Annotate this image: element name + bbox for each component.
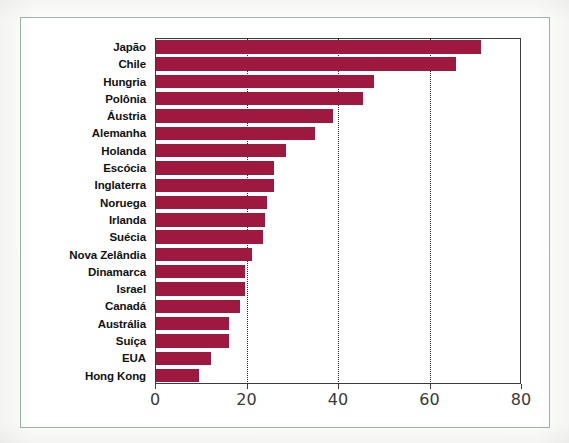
y-tick-label: Canadá: [30, 298, 150, 315]
bar-row: [156, 333, 520, 350]
y-tick-label: Hong Kong: [30, 368, 150, 385]
bar-row: [156, 74, 520, 91]
bar[interactable]: [156, 161, 274, 174]
bar[interactable]: [156, 352, 211, 365]
x-tick-label: 40: [318, 390, 358, 409]
y-tick-label: Austrália: [30, 316, 150, 333]
bar-row: [156, 39, 520, 56]
bar[interactable]: [156, 282, 245, 295]
x-tick-20: [247, 384, 248, 389]
bar[interactable]: [156, 144, 286, 157]
bar-row: [156, 91, 520, 108]
bar[interactable]: [156, 248, 252, 261]
y-tick-label: Dinamarca: [30, 264, 150, 281]
y-tick-label: Alemanha: [30, 125, 150, 142]
bar[interactable]: [156, 57, 456, 70]
y-tick-label: Noruega: [30, 195, 150, 212]
bar[interactable]: [156, 334, 229, 347]
bar-chart: Japão Chile Hungria Polônia Áustria Alem…: [0, 0, 569, 443]
bar[interactable]: [156, 213, 265, 226]
x-tick-label: 60: [410, 390, 450, 409]
bar[interactable]: [156, 265, 245, 278]
x-tick-0: [155, 384, 156, 389]
bar-row: [156, 212, 520, 229]
bar-row: [156, 281, 520, 298]
y-tick-label: Áustria: [30, 108, 150, 125]
bar[interactable]: [156, 230, 263, 243]
y-tick-label: Irlanda: [30, 212, 150, 229]
bar-row: [156, 264, 520, 281]
x-tick-40: [338, 384, 339, 389]
bar-row: [156, 177, 520, 194]
bar-row: [156, 229, 520, 246]
y-tick-label: Inglaterra: [30, 177, 150, 194]
bar-row: [156, 247, 520, 264]
y-tick-label: EUA: [30, 350, 150, 367]
bar-row: [156, 143, 520, 160]
y-tick-label: Nova Zelândia: [30, 247, 150, 264]
bar[interactable]: [156, 196, 267, 209]
bar-row: [156, 195, 520, 212]
y-tick-label: Escócia: [30, 160, 150, 177]
bar-row: [156, 368, 520, 385]
bar-row: [156, 316, 520, 333]
bar[interactable]: [156, 75, 374, 88]
bar[interactable]: [156, 369, 199, 382]
y-tick-label: Israel: [30, 281, 150, 298]
bars-layer: [156, 39, 520, 383]
x-tick-label: 0: [135, 390, 175, 409]
bar[interactable]: [156, 317, 229, 330]
bar[interactable]: [156, 109, 333, 122]
x-tick-label: 20: [227, 390, 267, 409]
bar-row: [156, 56, 520, 73]
x-tick-80: [521, 384, 522, 389]
bar-row: [156, 298, 520, 315]
y-tick-label: Chile: [30, 56, 150, 73]
bar[interactable]: [156, 127, 315, 140]
bar-row: [156, 125, 520, 142]
y-tick-label: Hungria: [30, 74, 150, 91]
bar[interactable]: [156, 92, 363, 105]
y-tick-label: Suíça: [30, 333, 150, 350]
bar-row: [156, 108, 520, 125]
y-axis-labels: Japão Chile Hungria Polônia Áustria Alem…: [30, 39, 150, 383]
bar[interactable]: [156, 40, 481, 53]
y-tick-label: Suécia: [30, 229, 150, 246]
bar-row: [156, 160, 520, 177]
y-tick-label: Holanda: [30, 143, 150, 160]
x-tick-label: 80: [501, 390, 541, 409]
x-tick-60: [430, 384, 431, 389]
y-tick-label: Polônia: [30, 91, 150, 108]
bar[interactable]: [156, 179, 274, 192]
figure-root: Japão Chile Hungria Polônia Áustria Alem…: [0, 0, 569, 443]
bar-row: [156, 350, 520, 367]
y-tick-label: Japão: [30, 39, 150, 56]
bar[interactable]: [156, 300, 240, 313]
